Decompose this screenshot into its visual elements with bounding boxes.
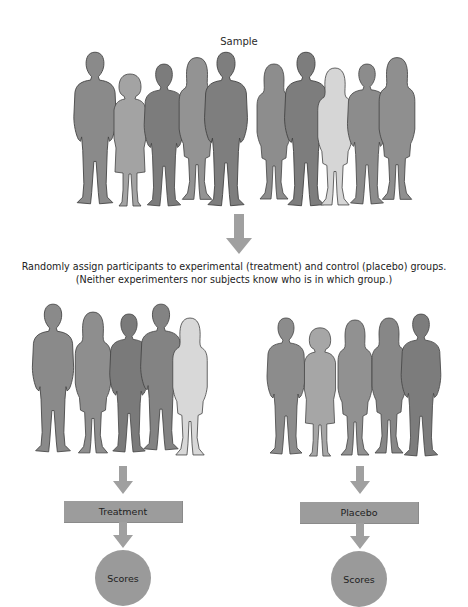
treatment-scores-label: Scores xyxy=(107,573,139,584)
person-icon xyxy=(32,304,73,452)
treatment-label: Treatment xyxy=(99,506,147,517)
treatment-group-figures xyxy=(28,302,218,458)
person-icon xyxy=(372,318,406,453)
person-icon xyxy=(267,318,305,454)
person-icon xyxy=(205,52,248,205)
treatment-arrow-out-icon xyxy=(113,522,133,548)
sample-group-figures xyxy=(70,48,420,208)
placebo-label: Placebo xyxy=(340,507,377,518)
caption-line-1: Randomly assign participants to experime… xyxy=(0,260,468,273)
treatment-box: Treatment xyxy=(64,501,183,523)
placebo-scores-circle: Scores xyxy=(331,551,387,607)
person-icon xyxy=(114,74,146,206)
placebo-box: Placebo xyxy=(300,502,419,524)
assignment-caption: Randomly assign participants to experime… xyxy=(0,260,468,286)
treatment-arrow-in-icon xyxy=(113,466,133,494)
caption-line-2: (Neither experimenters nor subjects know… xyxy=(0,273,468,286)
placebo-arrow-out-icon xyxy=(350,523,370,549)
treatment-scores-circle: Scores xyxy=(95,550,151,606)
person-icon xyxy=(304,328,335,456)
person-icon xyxy=(75,312,110,453)
person-icon xyxy=(379,58,415,200)
person-icon xyxy=(338,320,372,455)
person-icon xyxy=(74,52,116,204)
person-icon xyxy=(110,314,149,452)
placebo-scores-label: Scores xyxy=(343,574,375,585)
person-icon xyxy=(144,64,184,206)
down-arrow-icon xyxy=(226,214,252,254)
placebo-group-figures xyxy=(262,312,448,458)
person-icon xyxy=(401,314,441,456)
sample-label: Sample xyxy=(214,36,264,47)
placebo-arrow-in-icon xyxy=(350,466,370,494)
